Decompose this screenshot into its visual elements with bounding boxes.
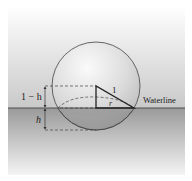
- label-upper-height: 1 − h: [21, 91, 42, 102]
- label-hypotenuse: 1: [112, 85, 117, 95]
- label-waterline: Waterline: [143, 95, 176, 105]
- floating-sphere-diagram: 1 − h h 1 r Waterline: [8, 5, 185, 175]
- label-submerged-height: h: [36, 114, 41, 125]
